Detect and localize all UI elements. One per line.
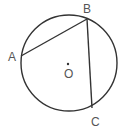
label-a: A [8, 50, 16, 64]
diagram-svg: A B C O [0, 0, 122, 131]
circle-diagram: A B C O [0, 0, 122, 131]
chord-ab [21, 19, 87, 56]
label-b: B [83, 2, 91, 16]
chord-bc [87, 19, 92, 108]
center-point-o [67, 63, 69, 65]
label-c: C [91, 115, 100, 129]
label-o: O [64, 67, 73, 81]
